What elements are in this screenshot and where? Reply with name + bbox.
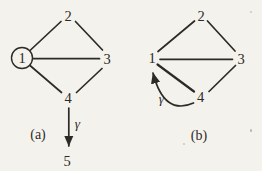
edge-2-3 [76, 22, 103, 51]
edge-1-2 [158, 21, 195, 52]
node-1-label: 1 [148, 50, 155, 66]
scan-speck [250, 11, 252, 13]
node-2-label: 2 [197, 8, 204, 24]
edge-1-2 [30, 22, 61, 51]
caption-b: (b) [191, 128, 208, 144]
panel-b: 1 2 3 4 γ (b) [148, 8, 244, 144]
node-2-label: 2 [64, 8, 71, 24]
node-4-label: 4 [197, 89, 205, 105]
node-1-label: 1 [18, 50, 25, 66]
edge-1-4 [158, 65, 195, 92]
graph-figure: 1 2 3 4 5 γ (a) 1 2 3 4 γ (b) [0, 0, 262, 171]
figure-canvas: 1 2 3 4 5 γ (a) 1 2 3 4 γ (b) [0, 0, 262, 171]
gamma-label-a: γ [75, 116, 81, 131]
panel-a: 1 2 3 4 5 γ (a) [12, 8, 111, 169]
scan-speck [183, 143, 185, 145]
edge-3-4 [77, 69, 103, 93]
node-4-label: 4 [64, 90, 72, 106]
gamma-label-b: γ [159, 91, 165, 106]
node-3-label: 3 [237, 51, 244, 67]
edge-1-4 [30, 66, 62, 93]
node-5-label: 5 [63, 153, 70, 169]
scan-speck [250, 129, 252, 132]
caption-a: (a) [30, 127, 46, 143]
node-3-label: 3 [103, 51, 110, 67]
edge-2-3 [208, 21, 236, 51]
edge-3-4 [209, 66, 236, 92]
